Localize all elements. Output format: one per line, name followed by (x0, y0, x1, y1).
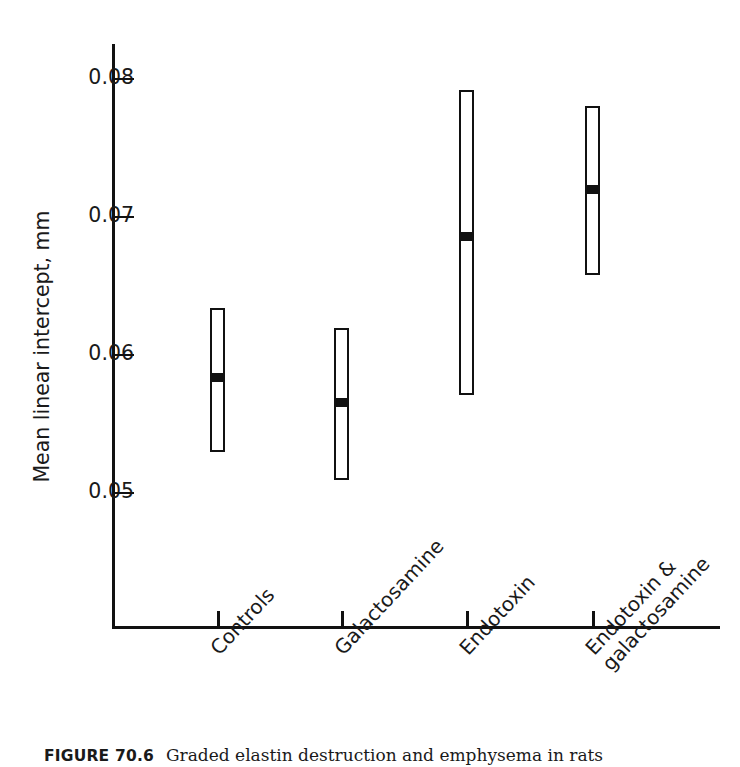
x-axis-label-endotoxin-galactosamine: Endotoxin & galactosamine (581, 537, 715, 676)
y-tick-mark-0.05 (115, 492, 134, 494)
y-axis-title: Mean linear intercept, mm (32, 137, 53, 557)
x-tick-mark-galactosamine (341, 611, 344, 627)
y-axis-line (112, 44, 115, 629)
mean-marker-3 (585, 185, 600, 194)
y-tick-mark-0.07 (115, 216, 134, 218)
mean-marker-1 (334, 398, 349, 407)
x-axis-label-galactosamine: Galactosamine (330, 535, 449, 660)
x-axis-label-galactosamine-line1: Galactosamine (329, 534, 448, 660)
x-tick-mark-controls (217, 611, 220, 627)
figure-caption: FIGURE 70.6Graded elastin destruction an… (44, 744, 734, 767)
y-tick-mark-0.08 (115, 78, 134, 80)
mean-marker-2 (459, 232, 474, 241)
x-tick-mark-endotoxin (466, 611, 469, 627)
mean-marker-0 (210, 373, 225, 382)
plot-area: Mean linear intercept, mm 0.08 0.07 0.06… (0, 0, 740, 740)
figure-caption-text: Graded elastin destruction and emphysema… (166, 745, 603, 765)
y-tick-mark-0.06 (115, 354, 134, 356)
figure-caption-label: FIGURE 70.6 (44, 747, 154, 765)
range-box-2 (459, 90, 474, 395)
x-tick-mark-endotoxin-galactosamine (592, 611, 595, 627)
